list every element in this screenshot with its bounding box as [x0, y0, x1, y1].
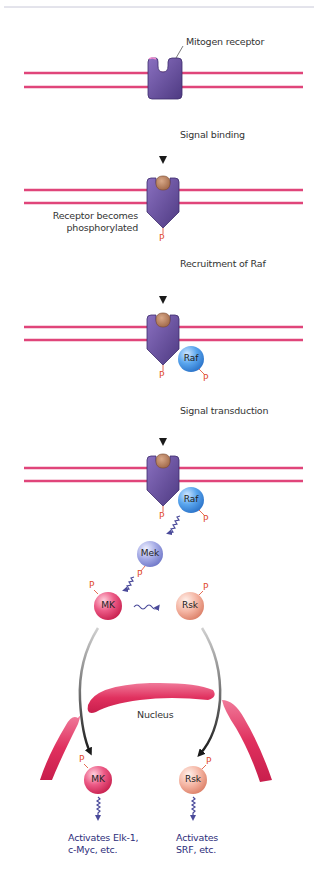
label-leader-line	[176, 46, 183, 58]
label-rsk-effect: Activates SRF, etc.	[176, 832, 218, 856]
squiggle-arrow-mek-to-mk	[125, 577, 134, 590]
phosphate-label: P	[203, 373, 208, 383]
phosphate-label: P	[137, 569, 142, 579]
phosphate-label: P	[203, 514, 208, 524]
arrow-mk-into-nucleus	[80, 628, 98, 752]
squiggle-arrow-mk-effect	[97, 797, 100, 818]
ligand-icon	[156, 454, 170, 468]
phosphate-label: P	[159, 370, 164, 380]
raf-label: Raf	[178, 353, 204, 363]
stage-4-signal-transduction	[24, 454, 303, 620]
label-signal-binding: Signal binding	[180, 129, 245, 140]
label-recruitment-of-raf: Recruitment of Raf	[180, 258, 266, 269]
nuclear-mk-label: MK	[84, 774, 112, 784]
ligand-icon	[156, 176, 170, 190]
nucleus-membrane-right	[222, 700, 272, 782]
nuclear-rsk-label: Rsk	[179, 774, 207, 784]
label-mitogen-receptor: Mitogen receptor	[186, 36, 264, 47]
phosphate-label: P	[159, 511, 164, 521]
raf-label: Raf	[178, 494, 204, 504]
squiggle-arrow-raf-to-mek	[169, 516, 180, 533]
map-kinase-pathway-diagram: Mitogen receptor Signal binding Receptor…	[0, 0, 320, 896]
squiggle-arrow-mk-to-rsk	[134, 605, 158, 609]
label-signal-transduction: Signal transduction	[180, 405, 268, 416]
label-phosphorylated: phosphorylated	[46, 222, 138, 233]
mk-label: MK	[94, 600, 122, 610]
mitogen-receptor-icon	[148, 58, 182, 99]
phosphate-label: P	[206, 756, 211, 766]
ligand-icon	[156, 313, 170, 327]
label-receptor-becomes: Receptor becomes	[46, 210, 138, 221]
nucleus-envelope	[40, 683, 272, 782]
stage-3-raf-recruited	[24, 313, 303, 374]
phosphate-label: P	[159, 233, 164, 243]
squiggle-arrow-rsk-effect	[192, 797, 195, 818]
phosphate-label: P	[89, 580, 94, 590]
phosphate-label: P	[203, 582, 208, 592]
label-mk-effect: Activates Elk-1, c-Myc, etc.	[68, 832, 138, 856]
label-nucleus: Nucleus	[137, 709, 173, 720]
nucleus-membrane-left	[40, 716, 80, 780]
phosphate-label: P	[79, 754, 84, 764]
mek-label: Mek	[136, 548, 164, 558]
rsk-label: Rsk	[176, 600, 204, 610]
stage-1-unbound-receptor	[24, 46, 303, 99]
